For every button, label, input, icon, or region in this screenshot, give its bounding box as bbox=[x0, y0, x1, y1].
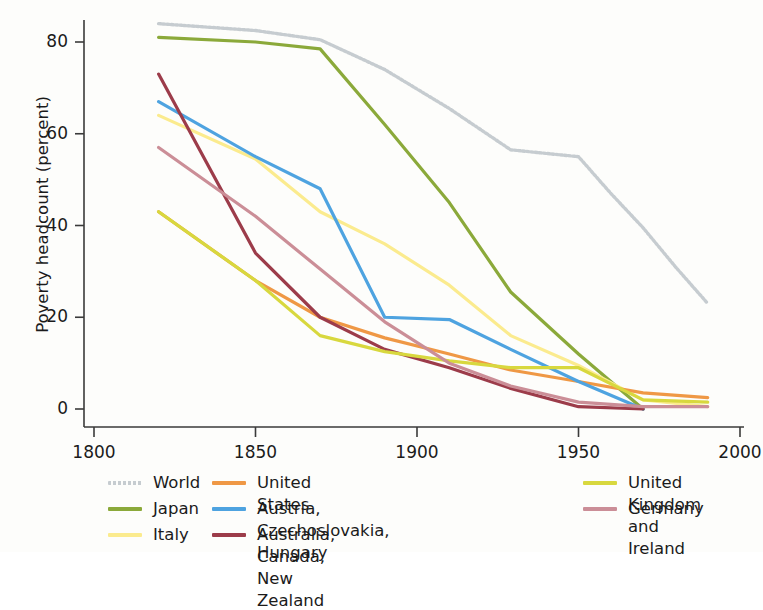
legend-item[interactable]: Italy bbox=[108, 524, 189, 550]
legend-label: Japan bbox=[153, 498, 199, 520]
series-line bbox=[159, 148, 708, 407]
legend-swatch-icon bbox=[212, 533, 246, 537]
legend-swatch-icon bbox=[212, 507, 246, 511]
series-line bbox=[159, 74, 643, 409]
legend-label: World bbox=[153, 472, 200, 494]
legend-item[interactable]: Austria, Czechoslovakia, Hungary bbox=[212, 498, 390, 524]
x-tick-label: 1950 bbox=[534, 442, 624, 462]
legend-swatch-icon bbox=[583, 507, 617, 511]
y-tick-label: 60 bbox=[10, 123, 68, 143]
legend-swatch-icon bbox=[108, 481, 142, 485]
y-tick-label: 40 bbox=[10, 215, 68, 235]
series-line bbox=[159, 24, 708, 304]
x-tick-label: 2000 bbox=[695, 442, 763, 462]
x-tick-label: 1800 bbox=[49, 442, 139, 462]
x-tick-label: 1900 bbox=[372, 442, 462, 462]
line-chart-plot bbox=[0, 0, 763, 470]
legend-item[interactable]: World bbox=[108, 472, 200, 498]
y-tick-label: 80 bbox=[10, 31, 68, 51]
legend-label: Italy bbox=[153, 524, 189, 546]
series-line bbox=[159, 212, 708, 398]
x-tick-label: 1850 bbox=[211, 442, 301, 462]
legend-item[interactable]: Germany bbox=[583, 498, 704, 524]
chart-legend: WorldJapanItalyUnited StatesAustria, Cze… bbox=[0, 472, 763, 552]
y-tick-label: 20 bbox=[10, 306, 68, 326]
legend-label: Germany bbox=[628, 498, 704, 520]
legend-item[interactable]: United States bbox=[212, 472, 311, 498]
legend-item[interactable]: United Kingdom and Ireland bbox=[583, 472, 701, 498]
legend-swatch-icon bbox=[108, 507, 142, 511]
legend-swatch-icon bbox=[108, 533, 142, 537]
legend-swatch-icon bbox=[212, 481, 246, 485]
legend-label: Australia, Canada, New Zealand bbox=[257, 524, 335, 610]
legend-item[interactable]: Japan bbox=[108, 498, 199, 524]
legend-item[interactable]: Australia, Canada, New Zealand bbox=[212, 524, 335, 550]
series-lines bbox=[159, 24, 708, 409]
legend-swatch-icon bbox=[583, 481, 617, 485]
y-tick-label: 0 bbox=[10, 398, 68, 418]
series-line bbox=[159, 212, 708, 402]
